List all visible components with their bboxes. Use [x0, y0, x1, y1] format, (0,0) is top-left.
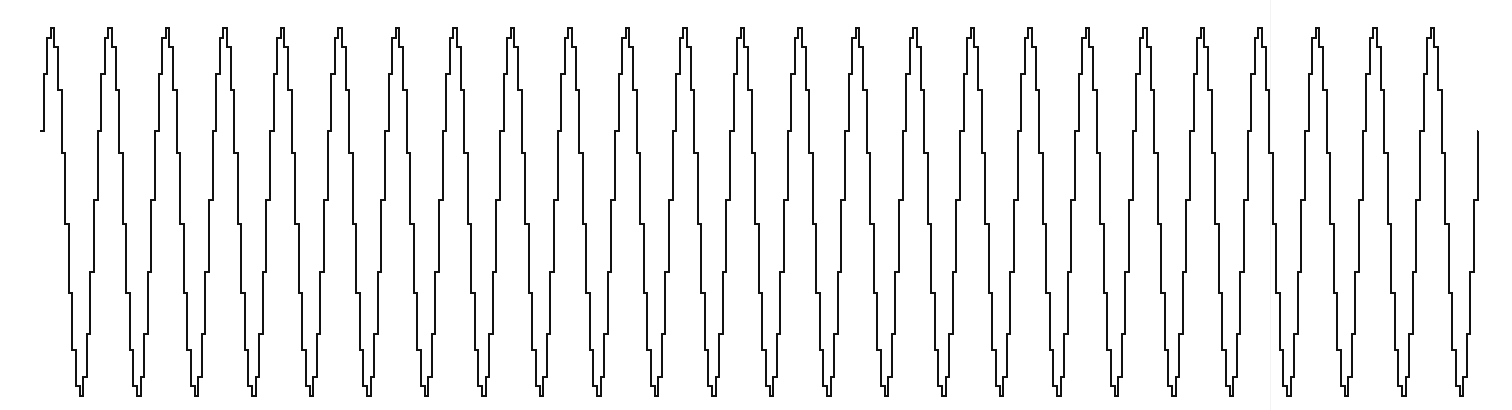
stepped-sine-line	[40, 28, 1478, 395]
waveform-plot	[0, 0, 1512, 410]
